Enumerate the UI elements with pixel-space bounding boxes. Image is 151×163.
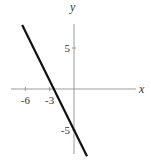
x-tick-label: -6 [21,94,31,106]
line-chart: x y -6-35-5 [0,0,151,163]
y-axis-label: y [69,0,76,14]
y-tick-label: 5 [65,42,71,54]
x-tick-label: -3 [45,94,55,106]
x-axis-label: x [138,82,145,96]
y-tick-label: -5 [61,124,71,136]
series-line [22,25,87,156]
